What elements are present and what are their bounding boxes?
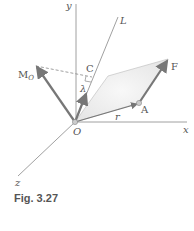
- z-axis-label: z: [14, 177, 21, 188]
- r-label: r: [115, 111, 121, 122]
- C-label: C: [86, 63, 94, 74]
- A-label: A: [140, 104, 149, 115]
- moment-vector-Mo: [37, 67, 75, 122]
- lambda-label: λ: [79, 83, 86, 94]
- dashed-projection: [36, 66, 92, 77]
- y-axis-label: y: [65, 0, 72, 11]
- figure-caption: Fig. 3.27: [14, 192, 58, 204]
- F-label: F: [171, 61, 178, 72]
- x-axis-label: x: [183, 124, 189, 135]
- L-label: L: [119, 15, 127, 26]
- z-axis: [18, 122, 75, 176]
- moment-label: MO: [18, 69, 34, 82]
- origin-label: O: [73, 126, 81, 137]
- origin-point: [72, 119, 77, 124]
